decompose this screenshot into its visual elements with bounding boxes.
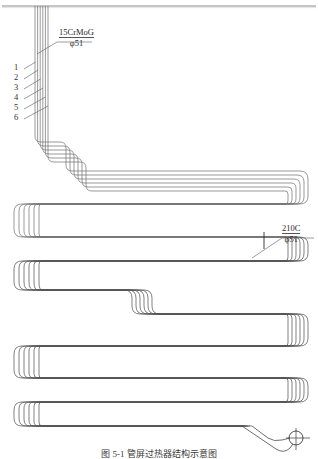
serpentine-pass-1: [14, 171, 308, 237]
callout-upper-material-spec: φ51: [59, 37, 94, 47]
tube-label-leaders: [24, 62, 48, 119]
callout-lower-material: 210C φ51: [282, 224, 300, 244]
tube-label-5: 5: [14, 102, 18, 112]
serpentine-left-bend-4: [14, 402, 252, 426]
tube-label-2: 2: [14, 72, 18, 82]
callout-upper-material: 15CrMoG φ51: [59, 28, 94, 48]
mid-step-jog-upper: [14, 282, 300, 314]
callout-upper-material-name: 15CrMoG: [59, 28, 94, 37]
figure-canvas: 1 2 3 4 5 6 15CrMoG φ51 210C φ51 图 5-1 管…: [0, 0, 318, 459]
serpentine-pass-3: [14, 314, 308, 378]
superheater-line-drawing: [0, 0, 318, 459]
tube-label-6: 6: [14, 112, 18, 122]
upper-step-transition: [60, 142, 300, 191]
tube-label-1: 1: [14, 62, 18, 72]
top-header-line: [2, 6, 316, 8]
tube-label-3: 3: [14, 82, 18, 92]
callout-lower-material-spec: φ51: [282, 233, 300, 243]
callout-lower-material-name: 210C: [282, 224, 300, 233]
figure-caption: 图 5-1 管屏过热器结构示意图: [0, 447, 318, 459]
serpentine-left-bend-2: [14, 261, 42, 282]
serpentine-pass-4: [22, 378, 308, 402]
tube-label-4: 4: [14, 92, 18, 102]
